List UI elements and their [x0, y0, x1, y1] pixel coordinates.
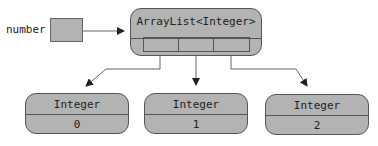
integer-type: Integer — [266, 95, 368, 115]
integer-value: 0 — [26, 115, 128, 131]
list-cell-0 — [144, 38, 179, 51]
integer-value: 2 — [266, 116, 368, 132]
list-cell-2 — [214, 38, 249, 51]
integer-object-0: Integer 0 — [25, 93, 129, 134]
integer-object-2: Integer 2 — [265, 94, 369, 135]
integer-object-1: Integer 1 — [144, 93, 248, 134]
arraylist-cells — [143, 37, 250, 52]
integer-value: 1 — [145, 115, 247, 131]
arraylist-type: ArrayList<Integer> — [131, 9, 261, 33]
arraylist-object: ArrayList<Integer> — [130, 8, 262, 56]
variable-box — [50, 18, 83, 42]
list-cell-1 — [179, 38, 214, 51]
variable-name: number — [6, 23, 46, 36]
integer-type: Integer — [145, 94, 247, 114]
integer-type: Integer — [26, 94, 128, 114]
